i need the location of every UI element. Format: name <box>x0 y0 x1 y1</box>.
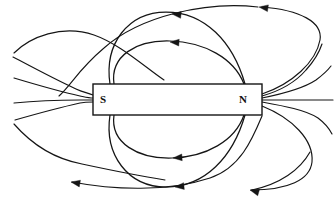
outer-loop-top-far <box>59 6 258 96</box>
outer-line-left-lower <box>15 102 93 120</box>
north-pole-label: N <box>239 93 247 105</box>
inner-loop-bottom-2 <box>109 115 245 187</box>
outer-loop-bottom-near-left <box>14 124 165 180</box>
outer-line-right-mid-upper <box>262 66 331 98</box>
inner-loop-bottom-1-arrowhead <box>173 154 182 161</box>
outer-line-right-upper <box>262 44 322 96</box>
outer-loop-bottom-right-arrowed <box>252 152 310 190</box>
outer-loop-top-near-left <box>14 31 164 80</box>
outer-loop-bottom-right-arrowed-arrowhead <box>250 189 260 196</box>
inner-loop-top-2-arrowhead <box>170 39 179 46</box>
field-line-canvas: S N <box>0 0 335 201</box>
inner-loop-top-2 <box>114 41 244 84</box>
south-pole-label: S <box>100 93 106 105</box>
bar-magnet-body <box>93 84 262 115</box>
outer-loop-right-top-sweep <box>262 7 320 94</box>
outer-line-left-mid-upper <box>14 78 93 98</box>
inner-loop-top-1 <box>109 12 245 84</box>
outer-loop-bottom-far-arrowhead <box>71 180 80 187</box>
outer-loop-top-far-arrowhead <box>259 5 268 12</box>
outer-loop-bottom-far <box>72 116 262 188</box>
outer-line-right-lower <box>262 102 332 134</box>
outer-loop-right-bottom-sweep <box>251 106 312 190</box>
magnetic-field-diagram: S N <box>0 0 335 201</box>
inner-loop-bottom-1 <box>114 115 244 158</box>
